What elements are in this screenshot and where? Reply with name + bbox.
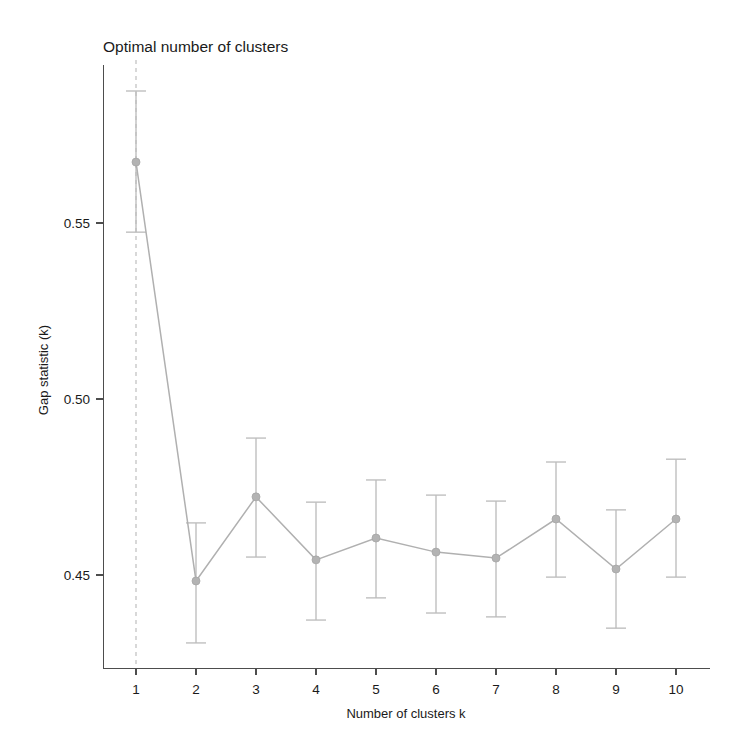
y-tick-label: 0.45 — [64, 568, 90, 583]
y-tick-label: 0.55 — [64, 216, 90, 231]
data-point — [132, 158, 140, 166]
x-tick-label: 9 — [612, 682, 620, 697]
gap-statistic-line — [136, 162, 676, 581]
data-point-markers — [132, 158, 680, 585]
x-axis-label: Number of clusters k — [346, 706, 466, 721]
x-tick-label: 3 — [252, 682, 260, 697]
x-tick-label: 2 — [192, 682, 200, 697]
data-point — [552, 515, 560, 523]
x-tick-label: 4 — [312, 682, 320, 697]
chart-svg: Optimal number of clusters Gap statistic… — [0, 0, 742, 746]
data-point — [432, 548, 440, 556]
data-point — [372, 534, 380, 542]
x-axis-ticks: 12345678910 — [132, 668, 683, 697]
data-point — [612, 565, 620, 573]
x-tick-label: 8 — [552, 682, 560, 697]
data-point — [252, 493, 260, 501]
data-point — [672, 515, 680, 523]
x-tick-label: 10 — [668, 682, 683, 697]
data-point — [312, 556, 320, 564]
y-axis-label: Gap statistic (k) — [36, 325, 51, 415]
data-point — [192, 577, 200, 585]
y-axis-ticks: 0.450.500.55 — [64, 216, 103, 583]
data-point — [492, 554, 500, 562]
series-line — [136, 162, 676, 581]
x-tick-label: 1 — [132, 682, 140, 697]
x-tick-label: 7 — [492, 682, 500, 697]
gap-statistic-chart: Optimal number of clusters Gap statistic… — [0, 0, 742, 746]
x-tick-label: 5 — [372, 682, 380, 697]
chart-title: Optimal number of clusters — [103, 38, 288, 55]
x-tick-label: 6 — [432, 682, 440, 697]
y-tick-label: 0.50 — [64, 392, 90, 407]
